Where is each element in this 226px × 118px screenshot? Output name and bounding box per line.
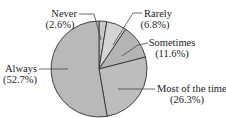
label-sometimes: Sometimes [149, 37, 196, 48]
label-most-of-the-time: Most of the time [157, 83, 226, 94]
label-most-of-the-time-pct: (26.3%) [170, 94, 205, 106]
label-rarely-pct: (6.8%) [141, 19, 170, 31]
label-rarely: Rarely [144, 8, 173, 19]
label-always-pct: (52.7%) [3, 74, 38, 86]
label-sometimes-pct: (11.6%) [155, 48, 189, 60]
label-never: Never [51, 8, 77, 19]
label-never-pct: (2.6%) [46, 19, 75, 31]
label-always: Always [5, 63, 37, 74]
pie-chart: Never (2.6%) Rarely (6.8%) Sometimes (11… [0, 0, 226, 118]
